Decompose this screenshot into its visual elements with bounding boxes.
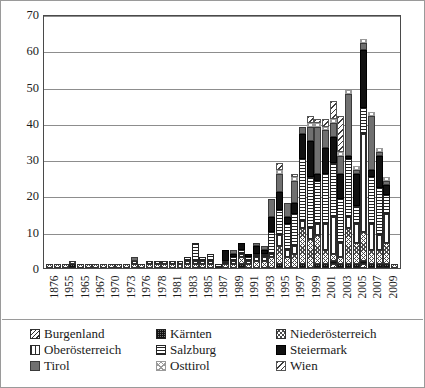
bar-1976 [131,257,138,268]
legend-label: Kärnten [170,326,212,341]
bar-series-group [44,16,400,268]
bar-segment-steiermark [268,217,275,232]
x-tick-1963: 1955 [60,271,68,317]
bar-1991 [238,243,245,268]
bar-segment-niederösterreich [108,264,115,268]
x-tick-1984: 1983 [184,271,192,317]
bar-segment-niederösterreich [222,264,229,268]
legend: BurgenlandKärntenNiederösterreichOberöst… [2,319,423,386]
x-tick-1991 [238,271,246,317]
bar-segment-tirol [299,127,306,134]
bar-segment-niederösterreich [337,257,344,264]
x-tick-1987 [207,271,215,317]
legend-item-salzburg[interactable]: Salzburg [156,342,276,357]
bar-segment-tirol [314,127,321,174]
bar-segment-kärnten [376,264,383,268]
bar-segment-niederösterreich [230,264,237,268]
x-tick-1980: 1978 [153,271,161,317]
legend-swatch-icon [30,345,40,355]
legend-label: Tirol [44,358,70,373]
bar-segment-steiermark [322,148,329,173]
bar-1994 [261,246,268,268]
bar-2001 [314,119,321,268]
bar-segment-kärnten [322,264,329,268]
legend-item-wien[interactable]: Wien [276,358,423,373]
bar-segment-oberösterreich [368,224,375,249]
y-tick-30: 30 [1,154,39,166]
x-tick-1993 [253,271,261,317]
bar-segment-oberösterreich [383,214,390,243]
bar-segment-oberösterreich [330,217,337,253]
bar-1978 [146,261,153,268]
bar-segment-niederösterreich [123,264,130,268]
x-tick-1997 [284,271,292,317]
legend-label: Oberösterreich [44,342,121,357]
bar-segment-niederösterreich [299,228,306,264]
bar-1998 [291,174,298,268]
x-tick-1967 [84,271,92,317]
legend-swatch-icon [276,329,286,339]
bar-1992 [245,254,252,269]
bar-segment-kärnten [368,264,375,268]
legend-label: Niederösterreich [290,326,377,341]
bar-segment-salzburg [330,163,337,217]
bar-2010 [383,177,390,268]
bar-segment-niederösterreich [291,254,298,269]
bar-1963 [62,264,69,268]
bar-segment-oberösterreich [307,228,314,239]
bar-segment-oberösterreich [337,243,344,258]
x-tick-1989 [222,271,230,317]
legend-item-oberösterreich[interactable]: Oberösterreich [30,342,156,357]
bar-2011 [391,264,398,268]
bar-segment-niederösterreich [360,232,367,261]
bar-segment-salzburg [268,232,275,254]
bar-segment-salzburg [314,181,321,225]
bar-1876 [46,264,53,268]
x-axis-tick-labels: 1876195519651967197019731976197819811983… [43,271,401,317]
bar-1966 [77,264,84,268]
legend-item-burgenland[interactable]: Burgenland [30,326,156,341]
legend-item-osttirol[interactable]: Osttirol [156,358,276,373]
x-tick-2007 [361,271,369,317]
bar-segment-salzburg [322,174,329,225]
bar-segment-steiermark [383,185,390,196]
bar-segment-salzburg [207,254,214,261]
bar-segment-niederösterreich [146,264,153,268]
bar-segment-oberösterreich [360,134,367,232]
bar-segment-salzburg [353,206,360,224]
bar-segment-salzburg [299,159,306,221]
legend-label: Osttirol [170,358,210,373]
bar-segment-salzburg [337,199,344,243]
legend-item-steiermark[interactable]: Steiermark [276,342,423,357]
bar-1988 [215,264,222,268]
bar-segment-steiermark [284,217,291,224]
x-tick-2004: 2003 [338,271,346,317]
legend-item-tirol[interactable]: Tirol [30,358,156,373]
bar-segment-oberösterreich [291,246,298,253]
bar-segment-wien [330,101,337,119]
bar-2004 [337,116,344,268]
bar-segment-tirol [284,203,291,218]
x-tick-1968: 1967 [91,271,99,317]
x-tick-1965 [68,271,76,317]
bar-1968 [92,264,99,268]
legend-item-kärnten[interactable]: Kärnten [156,326,276,341]
bar-1977 [138,264,145,268]
legend-item-niederösterreich[interactable]: Niederösterreich [276,326,423,341]
x-tick-2011 [392,271,400,317]
bar-segment-oberösterreich [314,224,321,235]
bar-segment-niederösterreich [307,239,314,268]
x-tick-1973 [114,271,122,317]
bar-segment-steiermark [376,156,383,189]
x-tick-1976 [130,271,138,317]
bar-segment-niederösterreich [314,235,321,264]
bar-segment-steiermark [337,174,344,199]
x-tick-2010: 2009 [384,271,392,317]
x-tick-1996: 1995 [276,271,284,317]
x-tick-2001 [315,271,323,317]
bar-1967 [85,264,92,268]
bar-segment-niederösterreich [169,264,176,268]
bar-1993 [253,243,260,268]
x-tick-1978 [145,271,153,317]
x-tick-1970 [99,271,107,317]
